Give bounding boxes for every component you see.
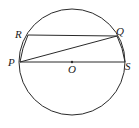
label-s: S [125, 60, 131, 72]
label-r: R [14, 28, 22, 40]
circle-diagram: R Q P S O [0, 0, 139, 128]
label-o: O [68, 63, 76, 75]
segment-pq [20, 36, 117, 62]
segment-rq [28, 35, 117, 36]
label-q: Q [116, 25, 124, 37]
label-p: P [7, 56, 15, 68]
